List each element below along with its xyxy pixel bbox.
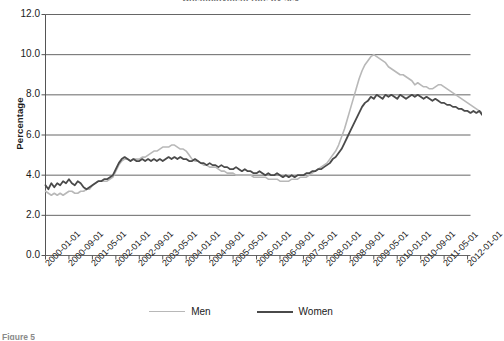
legend-label: Men — [191, 306, 210, 317]
legend-swatch-men-icon — [149, 311, 185, 312]
legend-swatch-women-icon — [257, 311, 293, 313]
figure-caption: Figure 5 — [2, 332, 35, 340]
legend-entry-men: Men — [149, 306, 210, 317]
legend-label: Women — [299, 306, 333, 317]
legend-entry-women: Women — [257, 306, 333, 317]
chart-legend: MenWomen — [0, 306, 482, 317]
